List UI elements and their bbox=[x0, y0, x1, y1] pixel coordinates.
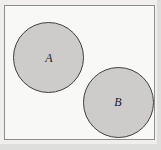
venn-diagram-figure: A B bbox=[0, 0, 161, 150]
scan-edge-shadow-right bbox=[157, 0, 161, 150]
set-label-b: B bbox=[112, 96, 124, 108]
set-label-a: A bbox=[43, 52, 55, 64]
universal-set-rectangle: A B bbox=[4, 5, 155, 140]
scan-edge-shadow-bottom bbox=[0, 144, 161, 150]
